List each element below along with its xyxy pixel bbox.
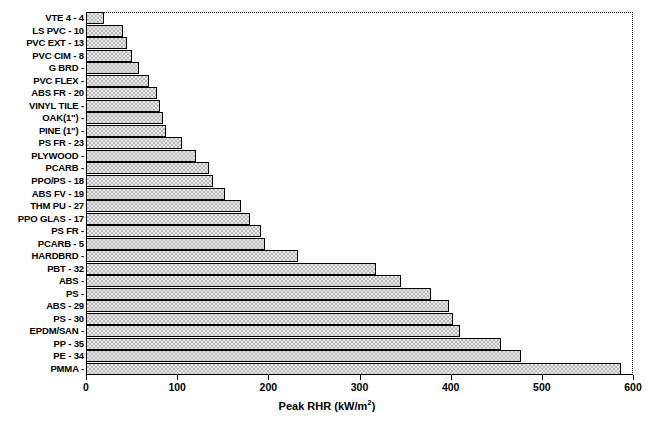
y-axis-tick-label: PPO/PS - 18 — [0, 175, 84, 187]
y-axis-tick-label: ABS FV - 19 — [0, 188, 84, 200]
x-axis-tick-label: 600 — [603, 381, 654, 393]
bar — [86, 62, 139, 74]
y-axis-tick-label: PS FR - 23 — [0, 137, 84, 149]
y-axis-tick-label: LS PVC - 10 — [0, 25, 84, 37]
bar — [86, 363, 621, 375]
bar — [86, 225, 261, 237]
bar — [86, 338, 501, 350]
x-axis-title-tail: ) — [372, 400, 376, 412]
x-axis-title: Peak RHR (kW/m2) — [0, 398, 654, 412]
y-axis-tick-label: VINYL TILE - — [0, 100, 84, 112]
bar — [86, 188, 225, 200]
x-axis-tick — [633, 375, 634, 380]
y-axis-tick-label: PS - 30 — [0, 313, 84, 325]
y-axis-tick-label: VTE 4 - 4 — [0, 12, 84, 24]
bar — [86, 75, 149, 87]
bar — [86, 325, 460, 337]
x-axis-tick — [360, 375, 361, 380]
bar — [86, 25, 123, 37]
y-axis-tick-label: THM PU - 27 — [0, 200, 84, 212]
bar — [86, 100, 160, 112]
y-axis-tick-label: PINE (1") - — [0, 125, 84, 137]
y-axis-tick-label: PCARB - — [0, 162, 84, 174]
bar — [86, 263, 376, 275]
y-axis-tick-label: ABS FR - 20 — [0, 87, 84, 99]
bar — [86, 150, 196, 162]
x-axis-tick-label: 0 — [56, 381, 116, 393]
bar — [86, 137, 182, 149]
y-axis-tick-label: PVC FLEX - — [0, 75, 84, 87]
bar — [86, 162, 209, 174]
x-axis-tick-label: 500 — [512, 381, 572, 393]
bar — [86, 87, 157, 99]
bar — [86, 250, 298, 262]
bar — [86, 288, 431, 300]
y-axis-tick-label: PCARB - 5 — [0, 238, 84, 250]
y-axis-tick-label: PS FR - — [0, 225, 84, 237]
y-axis-tick-label: ABS - — [0, 275, 84, 287]
y-axis-tick-label: G BRD - — [0, 62, 84, 74]
x-axis-tick-label: 400 — [421, 381, 481, 393]
bar — [86, 275, 401, 287]
y-axis-tick-label: PMMA - — [0, 363, 84, 375]
bar — [86, 350, 521, 362]
bar — [86, 112, 163, 124]
x-axis-tick — [86, 375, 87, 380]
y-axis-tick-label: PPO GLAS - 17 — [0, 213, 84, 225]
y-axis-tick-label: OAK(1") - — [0, 112, 84, 124]
bar — [86, 200, 241, 212]
y-axis-tick-label: PS - — [0, 288, 84, 300]
bar — [86, 313, 453, 325]
bar — [86, 238, 265, 250]
y-axis-tick-label: ABS - 29 — [0, 300, 84, 312]
bar — [86, 125, 166, 137]
x-axis-tick-label: 300 — [330, 381, 390, 393]
y-axis-tick-label: HARDBRD - — [0, 250, 84, 262]
x-axis-tick — [451, 375, 452, 380]
y-axis-tick-label: PVC CIM - 8 — [0, 50, 84, 62]
x-axis-tick — [542, 375, 543, 380]
y-axis-tick-label: PVC EXT - 13 — [0, 37, 84, 49]
x-axis-tick — [177, 375, 178, 380]
y-axis-tick-label: EPDM/SAN - — [0, 325, 84, 337]
x-axis-tick-label: 200 — [238, 381, 298, 393]
peak-rhr-bar-chart: VTE 4 - 4LS PVC - 10PVC EXT - 13PVC CIM … — [0, 0, 654, 427]
bar — [86, 213, 250, 225]
x-axis-tick-label: 100 — [147, 381, 207, 393]
y-axis-tick-label: PLYWOOD - — [0, 150, 84, 162]
bar — [86, 175, 213, 187]
x-axis-tick — [268, 375, 269, 380]
y-axis-tick-label: PE - 34 — [0, 350, 84, 362]
bar — [86, 300, 449, 312]
y-axis-tick-label: PP - 35 — [0, 338, 84, 350]
y-axis-tick-label: PBT - 32 — [0, 263, 84, 275]
bar — [86, 12, 104, 24]
bar — [86, 37, 127, 49]
x-axis-title-base: Peak RHR (kW/m — [279, 400, 368, 412]
bar — [86, 50, 132, 62]
